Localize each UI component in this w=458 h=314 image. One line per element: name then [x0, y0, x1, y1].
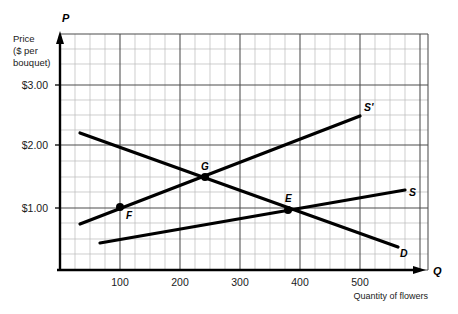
point-label-g: G [201, 161, 209, 172]
x-tick-label-200: 200 [171, 276, 189, 288]
curve-label-supply-shifted: S' [364, 101, 374, 113]
point-marker-f [116, 203, 124, 211]
y-axis-caption-line2: ($ per [13, 45, 38, 56]
point-label-f: F [126, 210, 133, 221]
curve-label-supply: S [409, 186, 416, 198]
x-tick-label-100: 100 [111, 276, 129, 288]
x-axis-symbol: Q [433, 265, 442, 277]
point-marker-g [201, 173, 209, 181]
curve-label-demand: D [400, 247, 408, 259]
x-tick-label-400: 400 [291, 276, 309, 288]
point-label-e: E [285, 193, 292, 204]
y-axis-caption-line3: bouquet) [13, 57, 51, 68]
point-marker-e [284, 206, 292, 214]
y-tick-label-1: $1.00 [22, 202, 48, 214]
y-axis-symbol: P [62, 12, 70, 24]
supply-demand-chart: F G E S' S D P Q $3.00 $2.00 $1.00 100 2… [0, 0, 458, 314]
y-axis-caption-line1: Price [13, 33, 35, 44]
x-axis-caption: Quantity of flowers [353, 291, 428, 301]
x-tick-label-300: 300 [231, 276, 249, 288]
x-tick-label-500: 500 [351, 276, 369, 288]
y-tick-label-3: $3.00 [22, 79, 48, 91]
y-tick-label-2: $2.00 [22, 139, 48, 151]
chart-background [0, 0, 458, 314]
